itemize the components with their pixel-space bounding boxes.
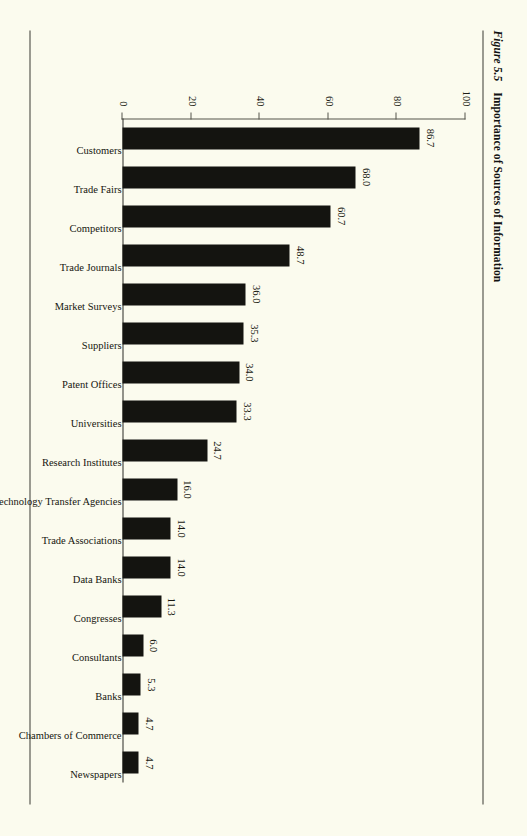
bar-value-label: 24.7 [211,441,222,459]
bar [122,556,170,578]
bar [122,166,355,188]
bar-value-label: 68.0 [359,167,370,185]
category-label: Chambers of Commerce [18,729,121,740]
bar-item: 33.3 [122,398,465,424]
bar-value-label: 14.0 [174,519,185,537]
category-label-slot: Customers [120,138,121,164]
category-label-slot: Trade Fairs [120,177,121,203]
bar-value-label: 48.7 [293,246,304,264]
category-label-slot: Trade Journals [120,255,121,281]
y-axis-tick-label: 20 [185,76,196,106]
category-labels: CustomersTrade FairsCompetitorsTrade Jou… [1,118,121,782]
bar-item: 6.0 [122,632,465,658]
bar-value-label: 6.0 [147,639,158,652]
category-label-slot: Market Surveys [120,294,121,320]
category-label: Congresses [73,612,121,623]
y-axis-tick-label: 40 [254,76,265,106]
bar [122,400,236,422]
bar [122,517,170,539]
category-label-slot: Patent Offices [120,372,121,398]
category-label: Research Institutes [41,456,121,467]
bar-item: 4.7 [122,710,465,736]
bar [122,283,245,305]
bar-item: 35.3 [122,320,465,346]
bar-value-label: 60.7 [334,206,345,224]
category-label: Market Surveys [54,300,121,311]
bar [122,244,289,266]
category-label: Data Banks [72,573,121,584]
category-label-slot: Newspapers [120,762,121,788]
bar-value-label: 5.3 [144,678,155,691]
bar-item: 4.7 [122,749,465,775]
bar-chart: 020406080100 Frequency in Percentage 86.… [0,0,527,836]
category-label-slot: Suppliers [120,333,121,359]
bar [122,205,330,227]
bar-item: 11.3 [122,593,465,619]
y-axis-tick-label: 80 [391,76,402,106]
category-label: Trade Associations [41,534,121,545]
category-label: Competitors [69,222,121,233]
bar-item: 68.0 [122,164,465,190]
category-label: Suppliers [81,339,121,350]
bar [122,478,177,500]
category-label-slot: Data Banks [120,567,121,593]
bar [122,751,138,773]
category-label: Technology Transfer Agencies [0,495,121,506]
bar [122,127,419,149]
bar [122,361,239,383]
bar-item: 36.0 [122,281,465,307]
bar [122,634,143,656]
bar-item: 86.7 [122,125,465,151]
category-label: Trade Journals [59,261,121,272]
category-label-slot: Trade Associations [120,528,121,554]
y-axis-tick-label: 0 [117,76,128,106]
bar-value-label: 11.3 [165,597,176,615]
category-label-slot: Chambers of Commerce [120,723,121,749]
bar [122,439,207,461]
y-axis-tick-label: 60 [322,76,333,106]
category-label: Newspapers [70,768,121,779]
bar-item: 24.7 [122,437,465,463]
bar-value-label: 14.0 [174,558,185,576]
bar-item: 14.0 [122,515,465,541]
bar-item: 60.7 [122,203,465,229]
category-label-slot: Banks [120,684,121,710]
bar [122,595,161,617]
bar-value-label: 34.0 [243,363,254,381]
category-label-slot: Competitors [120,216,121,242]
bar-item: 16.0 [122,476,465,502]
figure-page: Figure 5.5Importance of Sources of Infor… [0,0,527,836]
category-label: Universities [70,417,121,428]
bar-value-label: 16.0 [181,480,192,498]
bar-item: 14.0 [122,554,465,580]
category-label-slot: Universities [120,411,121,437]
category-label: Consultants [71,651,121,662]
category-label: Banks [95,690,121,701]
bar [122,712,138,734]
bar [122,673,140,695]
bar-item: 48.7 [122,242,465,268]
category-label: Trade Fairs [73,183,121,194]
bar-item: 34.0 [122,359,465,385]
rotated-page-wrapper: Figure 5.5Importance of Sources of Infor… [0,0,527,836]
bar-series: 86.768.060.748.736.035.334.033.324.716.0… [122,118,465,782]
category-label-slot: Research Institutes [120,450,121,476]
bar-value-label: 33.3 [240,402,251,420]
y-axis-tick-label: 100 [460,76,471,106]
bar-item: 5.3 [122,671,465,697]
bar-value-label: 4.7 [142,756,153,769]
category-label: Patent Offices [61,378,121,389]
category-label-slot: Consultants [120,645,121,671]
bar-value-label: 86.7 [423,128,434,146]
category-label-slot: Technology Transfer Agencies [120,489,121,515]
bar-value-label: 4.7 [142,717,153,730]
category-label: Customers [76,144,121,155]
bar-value-label: 36.0 [249,285,260,303]
bar-value-label: 35.3 [247,324,258,342]
bar [122,322,243,344]
category-label-slot: Congresses [120,606,121,632]
